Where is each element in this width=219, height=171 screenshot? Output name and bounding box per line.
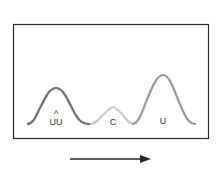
direction-arrow-icon	[70, 155, 151, 163]
chromatogram-diagram: UU ^ C U	[0, 0, 219, 171]
peak-label-c: C	[110, 117, 117, 127]
peak-label-u: U	[160, 116, 167, 126]
